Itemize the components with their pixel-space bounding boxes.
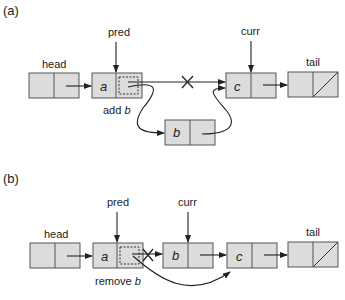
linked-list-diagram: (a) head a pred add b b — [0, 0, 345, 300]
node-b-value: b — [173, 125, 180, 140]
curr-label: curr — [241, 25, 260, 37]
pred-label: pred — [107, 196, 129, 208]
node-c-value: c — [236, 249, 243, 264]
tail-node — [288, 242, 338, 267]
cross-icon — [143, 249, 153, 261]
node-a-value: a — [100, 79, 107, 94]
head-label: head — [44, 228, 68, 240]
tail-node — [288, 72, 338, 97]
tail-label: tail — [306, 56, 320, 68]
pred-label: pred — [108, 26, 130, 38]
panel-a: (a) head a pred add b b — [3, 3, 338, 145]
head-label: head — [42, 58, 66, 70]
node-c-value: c — [234, 79, 241, 94]
tail-label: tail — [306, 226, 320, 238]
panel-b-label: (b) — [3, 171, 19, 186]
node-b-value: b — [172, 248, 179, 263]
operation-label: add b — [103, 104, 131, 116]
operation-label: remove b — [95, 275, 141, 287]
panel-a-label: (a) — [3, 3, 19, 18]
panel-b: (b) head a pred remove b b curr — [3, 171, 338, 287]
curr-label: curr — [178, 196, 197, 208]
node-a-value: a — [101, 249, 108, 264]
